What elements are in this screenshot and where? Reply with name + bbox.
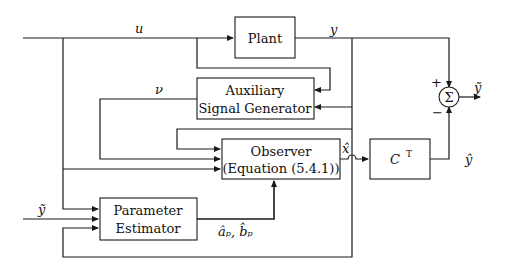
label-params: âₚ, b̂ₚ (218, 222, 253, 239)
estimator-label-line1: Parameter (113, 203, 183, 218)
wire-y (295, 38, 449, 87)
plant-label: Plant (248, 31, 283, 46)
ct-superscript: T (406, 149, 412, 159)
label-x-hat: x̂ (342, 141, 350, 156)
label-y-hat: ŷ (464, 152, 473, 167)
sum-symbol: Σ (444, 90, 453, 105)
label-nu: ν (155, 82, 163, 97)
sum-minus-sign: − (432, 105, 443, 120)
aux-label-line1: Auxiliary (225, 83, 286, 98)
aux-label-line2: Signal Generator (198, 101, 312, 116)
label-u: u (135, 21, 143, 36)
ct-label: C (390, 152, 400, 167)
wire-u-trunk (63, 38, 98, 209)
label-y-tilde-in: ỹ (37, 202, 46, 217)
estimator-label-line2: Estimator (116, 221, 182, 236)
sum-plus-sign: + (431, 75, 442, 90)
label-y: y (329, 22, 338, 37)
wire-params (197, 181, 274, 219)
block-diagram: u Plant y Auxiliary Signal Generator ν O… (0, 0, 505, 275)
observer-label-line1: Observer (251, 144, 313, 159)
label-y-tilde-out: ỹ (473, 80, 482, 95)
c-transpose-block (370, 139, 430, 179)
observer-label-line2: (Equation (5.4.1)) (222, 161, 339, 176)
